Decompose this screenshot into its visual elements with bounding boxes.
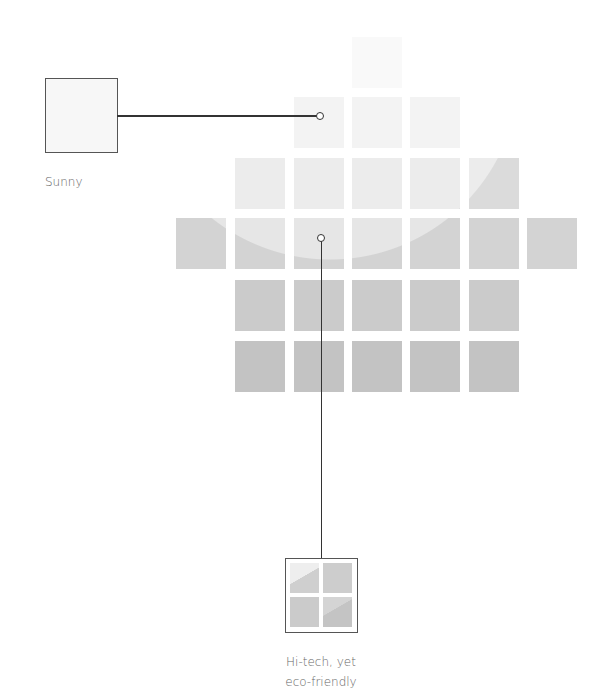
hitech-label-line1: Hi-tech, yet bbox=[261, 652, 381, 672]
grid-tile bbox=[410, 218, 460, 269]
hitech-connector-line bbox=[321, 240, 323, 559]
grid-tile bbox=[410, 341, 460, 392]
mini-tile-2 bbox=[323, 563, 352, 593]
grid-tile bbox=[410, 280, 460, 331]
grid-tile bbox=[294, 97, 344, 148]
grid-tile bbox=[469, 341, 519, 392]
mini-tile-4 bbox=[323, 597, 352, 627]
grid-tile bbox=[294, 158, 344, 209]
grid-tile bbox=[352, 97, 402, 148]
grid-tile bbox=[294, 280, 344, 331]
hitech-swatch bbox=[285, 558, 358, 633]
hitech-connector-dot bbox=[317, 234, 325, 242]
sunny-swatch bbox=[45, 78, 118, 153]
grid-tile bbox=[235, 158, 285, 209]
grid-tile bbox=[294, 218, 344, 269]
mini-tile-1 bbox=[290, 563, 319, 593]
grid-tile bbox=[469, 158, 519, 209]
sunny-connector-dot bbox=[316, 112, 324, 120]
grid-tile bbox=[410, 158, 460, 209]
sunny-label: Sunny bbox=[45, 172, 105, 192]
grid-tile bbox=[235, 341, 285, 392]
grid-tile bbox=[294, 341, 344, 392]
grid-tile bbox=[176, 218, 226, 269]
grid-tile bbox=[235, 218, 285, 269]
grid-tile bbox=[352, 341, 402, 392]
grid-tile bbox=[235, 280, 285, 331]
grid-tile bbox=[469, 280, 519, 331]
grid-tile bbox=[410, 97, 460, 148]
mini-tile-3 bbox=[290, 597, 319, 627]
grid-tile bbox=[469, 218, 519, 269]
grid-tile bbox=[352, 280, 402, 331]
grid-tile bbox=[352, 158, 402, 209]
sunny-connector-line bbox=[117, 115, 318, 117]
grid-tile bbox=[352, 218, 402, 269]
grid-tile bbox=[352, 37, 402, 88]
hitech-label-line2: eco-friendly bbox=[261, 672, 381, 692]
grid-tile bbox=[527, 218, 577, 269]
